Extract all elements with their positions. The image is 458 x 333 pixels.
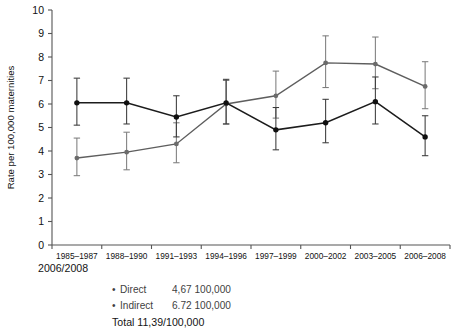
data-point-direct (273, 127, 278, 132)
chart-container: 012345678910Rate per 100,000 maternities… (0, 0, 458, 333)
y-tick-label: 8 (38, 51, 44, 63)
data-point-direct (124, 100, 129, 105)
legend-item-indirect: •Indirect6.72 100,000 (112, 300, 231, 311)
legend-label-indirect: Indirect (120, 300, 172, 311)
data-point-direct (323, 120, 328, 125)
data-point-indirect (273, 93, 278, 98)
y-tick-label: 3 (38, 168, 44, 180)
data-point-indirect (423, 84, 428, 89)
y-tick-label: 4 (38, 145, 44, 157)
x-tick-label: 2003–2005 (355, 251, 397, 261)
y-tick-label: 5 (38, 121, 44, 133)
legend-item-direct: •Direct4,67 100,000 (112, 284, 231, 295)
y-axis-title: Rate per 100,000 maternities (5, 65, 16, 189)
y-tick-label: 9 (38, 27, 44, 39)
x-tick-label: 1985–1987 (56, 251, 98, 261)
data-point-indirect (74, 156, 79, 161)
y-tick-label: 6 (38, 98, 44, 110)
data-point-direct (174, 114, 179, 119)
legend-bullet-indirect: • (112, 300, 120, 311)
legend-value-indirect: 6.72 100,000 (172, 300, 231, 311)
y-tick-label: 0 (38, 239, 44, 251)
x-tick-label: 1994–1996 (205, 251, 247, 261)
data-point-direct (422, 134, 427, 139)
period-note: 2006/2008 (38, 262, 88, 274)
x-tick-label: 1988–1990 (106, 251, 148, 261)
data-point-direct (223, 100, 228, 105)
x-tick-label: 2006–2008 (404, 251, 446, 261)
x-tick-label: 1991–1993 (156, 251, 198, 261)
data-point-indirect (323, 60, 328, 65)
data-point-indirect (124, 150, 129, 155)
y-tick-label: 2 (38, 192, 44, 204)
data-point-direct (74, 100, 79, 105)
y-tick-label: 10 (32, 4, 44, 16)
legend-value-direct: 4,67 100,000 (172, 284, 231, 295)
legend-total-line: Total 11,39/100,000 (112, 316, 204, 328)
legend-label-direct: Direct (120, 284, 172, 295)
data-point-indirect (174, 142, 179, 147)
x-tick-label: 1997–1999 (255, 251, 297, 261)
x-tick-label: 2000–2002 (305, 251, 347, 261)
data-point-indirect (373, 62, 378, 67)
y-tick-label: 1 (38, 215, 44, 227)
data-point-direct (373, 99, 378, 104)
series-line-direct (77, 102, 425, 137)
y-tick-label: 7 (38, 74, 44, 86)
legend-bullet-direct: • (112, 284, 120, 295)
